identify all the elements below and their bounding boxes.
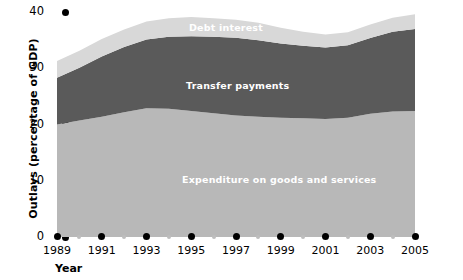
x-tick-marker [98,233,105,240]
x-minor-tick-marker [346,235,350,239]
x-minor-tick-marker [301,235,305,239]
x-tick-marker [412,233,419,240]
x-tick-label: 2005 [395,244,435,257]
x-axis: 198919911993199519971999200120032005 [0,0,463,280]
x-axis-title: Year [55,262,82,275]
x-minor-tick-marker [77,235,81,239]
x-tick-marker [322,233,329,240]
x-minor-tick-marker [167,235,171,239]
x-tick-marker [143,233,150,240]
x-tick-label: 1989 [37,244,77,257]
x-tick-marker [277,233,284,240]
stacked-area-chart: Outlays (percentage of GDP) 010203040 De… [0,0,463,280]
x-minor-tick-marker [256,235,260,239]
x-tick-marker [54,233,61,240]
x-minor-tick-marker [391,235,395,239]
x-minor-tick-marker [122,235,126,239]
x-minor-tick-marker [212,235,216,239]
x-tick-marker [367,233,374,240]
x-tick-marker [233,233,240,240]
x-tick-label: 1991 [82,244,122,257]
x-tick-label: 1995 [171,244,211,257]
x-tick-label: 1993 [127,244,167,257]
x-tick-label: 2001 [306,244,346,257]
x-tick-marker [188,233,195,240]
x-tick-label: 1997 [216,244,256,257]
x-tick-label: 2003 [350,244,390,257]
x-tick-label: 1999 [261,244,301,257]
